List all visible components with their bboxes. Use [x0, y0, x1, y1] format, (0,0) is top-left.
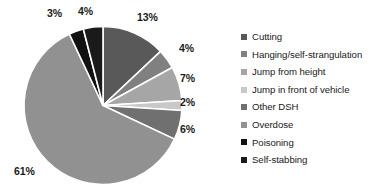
slice-value-label: 4% [78, 6, 93, 17]
legend-item-label: Overdose [252, 120, 293, 130]
legend-item-label: Self-stabbing [252, 155, 307, 165]
slice-value-label: 7% [180, 73, 195, 84]
legend-item-label: Poisoning [252, 138, 294, 148]
legend-swatch-icon [241, 139, 247, 145]
legend-swatch-icon [241, 34, 247, 40]
pie-svg [0, 0, 232, 191]
slice-value-label: 6% [180, 124, 195, 135]
legend-item-label: Hanging/self-strangulation [252, 50, 362, 60]
slice-value-label: 61% [14, 166, 35, 177]
legend-swatch-icon [241, 51, 247, 57]
legend-item-label: Other DSH [252, 102, 298, 112]
legend-swatch-icon [241, 69, 247, 75]
legend-item[interactable]: Other DSH [241, 98, 392, 116]
legend-item[interactable]: Jump from height [241, 63, 392, 81]
legend-swatch-icon [241, 157, 247, 163]
legend-item[interactable]: Jump in front of vehicle [241, 81, 392, 99]
slice-value-label: 13% [137, 12, 158, 23]
legend-item[interactable]: Cutting [241, 28, 392, 46]
pie-chart-figure: 13%4%7%2%6%61%3%4% CuttingHanging/self-s… [0, 0, 392, 191]
legend: CuttingHanging/self-strangulationJump fr… [241, 28, 392, 169]
pie-slices [24, 27, 182, 185]
legend-item[interactable]: Hanging/self-strangulation [241, 46, 392, 64]
legend-swatch-icon [241, 122, 247, 128]
legend-item[interactable]: Poisoning [241, 134, 392, 152]
legend-item-label: Jump in front of vehicle [252, 85, 349, 95]
legend-swatch-icon [241, 104, 247, 110]
slice-value-label: 4% [179, 43, 194, 54]
legend-item[interactable]: Self-stabbing [241, 151, 392, 169]
legend-item-label: Cutting [252, 32, 282, 42]
slice-value-label: 2% [180, 97, 195, 108]
legend-swatch-icon [241, 87, 247, 93]
legend-item[interactable]: Overdose [241, 116, 392, 134]
pie-plot-area: 13%4%7%2%6%61%3%4% [0, 0, 232, 191]
slice-value-label: 3% [47, 8, 62, 19]
legend-item-label: Jump from height [252, 67, 325, 77]
